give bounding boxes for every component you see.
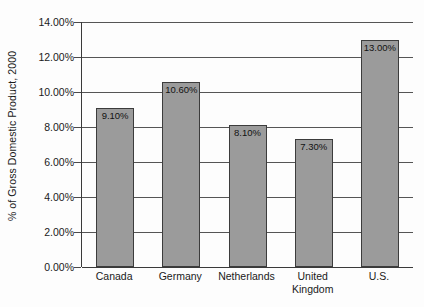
bar-value-label: 9.10% bbox=[97, 111, 133, 121]
y-axis-tick-label: 0.00% bbox=[22, 262, 74, 272]
y-axis-tick-mark bbox=[74, 162, 81, 163]
y-axis-tick-label: 2.00% bbox=[22, 227, 74, 237]
bar: 13.00% bbox=[361, 40, 399, 268]
bar-value-label: 10.60% bbox=[163, 85, 199, 95]
y-axis-tick-mark bbox=[74, 92, 81, 93]
y-axis-tick-mark bbox=[74, 197, 81, 198]
x-axis-tick-label-line: Netherlands bbox=[213, 270, 279, 283]
x-axis-tick-label-line: Canada bbox=[81, 270, 147, 283]
y-axis-tick-label: 8.00% bbox=[22, 122, 74, 132]
y-axis-tick-label: 10.00% bbox=[22, 87, 74, 97]
x-axis-tick-label: UnitedKingdom bbox=[280, 270, 346, 296]
x-axis-tick-label-line: U.S. bbox=[346, 270, 412, 283]
y-axis-tick-labels: 0.00%2.00%4.00%6.00%8.00%10.00%12.00%14.… bbox=[22, 22, 74, 267]
bar: 10.60% bbox=[162, 82, 200, 268]
bar-chart: % of Gross Domestic Product, 2000 0.00%2… bbox=[0, 0, 424, 307]
x-axis-tick-label: Germany bbox=[147, 270, 213, 283]
y-axis-tick-mark bbox=[74, 22, 81, 23]
x-axis-tick-label: Netherlands bbox=[213, 270, 279, 283]
y-axis-title: % of Gross Domestic Product, 2000 bbox=[0, 0, 24, 272]
axis-baseline bbox=[82, 267, 413, 268]
x-axis-tick-label: Canada bbox=[81, 270, 147, 283]
bar: 7.30% bbox=[295, 139, 333, 267]
bar-value-label: 13.00% bbox=[362, 43, 398, 53]
y-axis-tick-mark bbox=[74, 57, 81, 58]
x-axis-tick-labels: CanadaGermanyNetherlandsUnitedKingdomU.S… bbox=[81, 270, 412, 306]
bar-value-label: 7.30% bbox=[296, 142, 332, 152]
y-axis-tick-label: 12.00% bbox=[22, 52, 74, 62]
y-axis-tick-mark bbox=[74, 267, 81, 268]
x-axis-tick-label-line: United bbox=[280, 270, 346, 283]
y-axis-tick-mark bbox=[74, 127, 81, 128]
x-axis-tick-label-line: Kingdom bbox=[280, 283, 346, 296]
x-axis-tick-label: U.S. bbox=[346, 270, 412, 283]
y-axis-tick-label: 14.00% bbox=[22, 17, 74, 27]
bar: 9.10% bbox=[96, 108, 134, 267]
bar-value-label: 8.10% bbox=[230, 128, 266, 138]
plot-area: 9.10%10.60%8.10%7.30%13.00% bbox=[81, 22, 412, 267]
y-axis-title-text: % of Gross Domestic Product, 2000 bbox=[6, 51, 18, 221]
y-axis-tick-label: 6.00% bbox=[22, 157, 74, 167]
bars: 9.10%10.60%8.10%7.30%13.00% bbox=[82, 22, 413, 267]
y-axis-tick-mark bbox=[74, 232, 81, 233]
y-axis-tick-label: 4.00% bbox=[22, 192, 74, 202]
x-axis-tick-label-line: Germany bbox=[147, 270, 213, 283]
bar: 8.10% bbox=[229, 125, 267, 267]
